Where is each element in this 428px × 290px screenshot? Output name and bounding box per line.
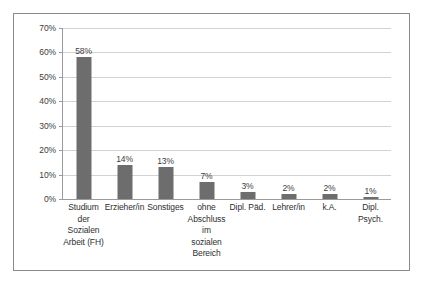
bar-data-label: 1% [364, 186, 376, 196]
bar-slot: 14% [104, 28, 145, 199]
bar-slot: 2% [268, 28, 309, 199]
bar-slot: 1% [350, 28, 391, 199]
bar-data-label: 3% [241, 181, 253, 191]
bar-data-label: 13% [157, 156, 174, 166]
bar-data-label: 2% [323, 183, 335, 193]
y-tick-mark [59, 150, 62, 151]
x-axis-category-label: StudiumderSozialenArbeit (FH) [63, 202, 104, 248]
x-axis-category-line: im [186, 225, 227, 237]
bar-data-label: 14% [116, 154, 133, 164]
bar-slot: 2% [309, 28, 350, 199]
x-axis-category-line: Sonstiges [145, 202, 186, 214]
y-tick-mark [59, 52, 62, 53]
x-axis-category-label: k.A. [309, 202, 350, 214]
x-axis-category-line: sozialen [186, 237, 227, 249]
x-axis-category-line: der [63, 214, 104, 226]
y-tick-mark [59, 175, 62, 176]
plot-area: 0%10%20%30%40%50%60%70% 58%14%13%7%3%2%2… [14, 14, 409, 270]
bar[interactable] [240, 192, 255, 199]
x-axis-category-line: Bereich [186, 248, 227, 260]
bar-series: 58%14%13%7%3%2%2%1% [63, 28, 391, 199]
y-tick-mark [59, 126, 62, 127]
bar[interactable] [363, 197, 378, 199]
y-tick-mark [59, 199, 62, 200]
x-axis-category-line: Abschluss [186, 214, 227, 226]
x-axis-category-label: Lehrer/in [268, 202, 309, 214]
x-axis-category-line: ohne [186, 202, 227, 214]
y-axis-tick-label: 50% [39, 72, 56, 82]
x-axis-category-line: Dipl. [350, 202, 391, 214]
chart-frame: 0%10%20%30%40%50%60%70% 58%14%13%7%3%2%2… [13, 13, 410, 271]
x-axis-category-line: Sozialen [63, 225, 104, 237]
y-axis-tick-label: 60% [39, 47, 56, 57]
bar-data-label: 7% [200, 171, 212, 181]
x-axis-category-line: Erzieher/in [104, 202, 145, 214]
y-tick-mark [59, 77, 62, 78]
bar-data-label: 58% [75, 46, 92, 56]
bar[interactable] [281, 194, 296, 199]
y-axis-tick-label: 30% [39, 121, 56, 131]
x-axis-category-label: Erzieher/in [104, 202, 145, 214]
x-axis-category-label: Dipl.Psych. [350, 202, 391, 225]
bar[interactable] [199, 182, 214, 199]
x-axis-category-label: ohneAbschlussimsozialenBereich [186, 202, 227, 260]
x-axis-category-labels: StudiumderSozialenArbeit (FH)Erzieher/in… [63, 202, 391, 268]
y-tick-mark [59, 28, 62, 29]
bar[interactable] [117, 165, 132, 199]
bar[interactable] [158, 167, 173, 199]
x-axis-category-line: Lehrer/in [268, 202, 309, 214]
y-axis-tick-labels: 0%10%20%30%40%50%60%70% [14, 28, 59, 200]
y-tick-mark [59, 101, 62, 102]
bar-data-label: 2% [282, 183, 294, 193]
y-axis-tick-label: 40% [39, 96, 56, 106]
y-axis-tick-label: 70% [39, 23, 56, 33]
y-axis-tick-label: 0% [44, 194, 56, 204]
y-axis-tick-label: 10% [39, 170, 56, 180]
bar-slot: 13% [145, 28, 186, 199]
x-axis-category-line: Dipl. Päd. [227, 202, 268, 214]
bar-slot: 7% [186, 28, 227, 199]
x-axis-category-line: Psych. [350, 214, 391, 226]
bar[interactable] [322, 194, 337, 199]
x-axis-category-label: Sonstiges [145, 202, 186, 214]
x-axis-category-line: Studium [63, 202, 104, 214]
x-axis-category-line: k.A. [309, 202, 350, 214]
bar-slot: 3% [227, 28, 268, 199]
x-axis-category-line: Arbeit (FH) [63, 237, 104, 249]
bar-slot: 58% [63, 28, 104, 199]
y-axis-tick-label: 20% [39, 145, 56, 155]
bar[interactable] [76, 57, 91, 199]
gridline-0pct [62, 199, 391, 200]
x-axis-category-label: Dipl. Päd. [227, 202, 268, 214]
